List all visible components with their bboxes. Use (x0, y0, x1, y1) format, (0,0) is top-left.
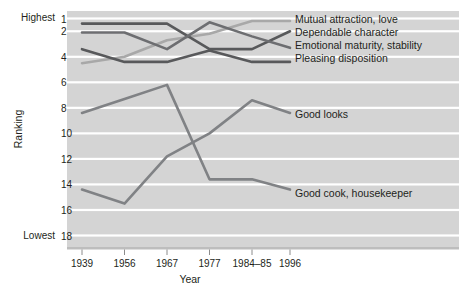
chart-canvas: 124681012141618 19391956196719771984–851… (0, 0, 459, 289)
x-tick-label: 1977 (198, 258, 221, 269)
series-label: Emotional maturity, stability (295, 39, 423, 51)
x-tick-label: 1996 (279, 258, 302, 269)
gridline (67, 81, 459, 83)
y-tick-label: 18 (61, 231, 73, 242)
y-tick-label: 4 (61, 52, 67, 63)
y-tick-label: 14 (61, 179, 73, 190)
y-axis-highest-label: Highest (21, 12, 55, 23)
x-axis-line (67, 247, 459, 250)
gridline (67, 17, 459, 19)
x-tick-label: 1984–85 (233, 258, 272, 269)
y-tick-label: 2 (61, 26, 67, 37)
line-chart: 124681012141618 19391956196719771984–851… (0, 0, 459, 289)
x-tick-label: 1939 (71, 258, 94, 269)
y-axis-title: Ranking (12, 110, 24, 149)
y-tick-label: 8 (61, 103, 67, 114)
x-axis-title: Year (179, 273, 201, 285)
x-tick-label: 1956 (113, 258, 136, 269)
series-label: Good looks (295, 108, 348, 120)
y-axis-lowest-label: Lowest (23, 230, 55, 241)
gridline (67, 183, 459, 185)
y-tick-label: 12 (61, 154, 73, 165)
y-tick-label: 1 (61, 14, 67, 25)
x-tick-label: 1967 (156, 258, 179, 269)
series-label: Pleasing disposition (295, 52, 388, 64)
gridline (67, 107, 459, 109)
gridline (67, 209, 459, 211)
y-tick-label: 10 (61, 128, 73, 139)
gridline (67, 132, 459, 134)
series-label: Good cook, housekeeper (295, 187, 413, 199)
gridline (67, 234, 459, 236)
y-tick-label: 16 (61, 205, 73, 216)
series-label: Mutual attraction, love (295, 13, 398, 25)
y-tick-label: 6 (61, 77, 67, 88)
series-label: Dependable character (295, 26, 399, 38)
gridline (67, 158, 459, 160)
